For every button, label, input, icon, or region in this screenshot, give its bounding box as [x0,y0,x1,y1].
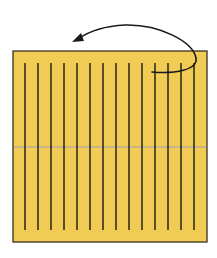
arrowhead-icon [72,33,84,42]
origami-fold-diagram [0,0,217,258]
